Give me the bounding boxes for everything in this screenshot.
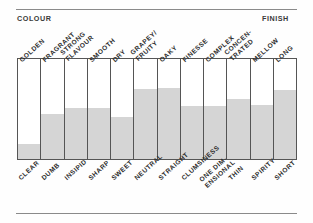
- bottom-divider-rule: [16, 213, 297, 214]
- bar-fill: [111, 117, 133, 159]
- bar-column: [181, 59, 204, 159]
- bar-fill: [65, 108, 87, 159]
- bar-column: [134, 59, 157, 159]
- bar-fill: [134, 89, 156, 159]
- bar-column: [18, 59, 41, 159]
- bar-chart-plot-area: [17, 58, 297, 160]
- bar-column: [65, 59, 88, 159]
- bottom-tick-line-1: SHORT: [273, 159, 297, 181]
- bar-fill: [227, 99, 249, 159]
- bar-fill: [41, 114, 63, 159]
- bottom-tick-line-1: CLEAR: [17, 159, 40, 181]
- header-label-colour: COLOUR: [17, 14, 51, 23]
- bottom-tick-line-1: INSIPID: [63, 158, 88, 181]
- bottom-tick-label: CLEAR: [17, 159, 41, 182]
- header-label-finish: FINISH: [262, 14, 289, 23]
- bar-column: [88, 59, 111, 159]
- bar-column: [274, 59, 296, 159]
- bottom-tick-label: DUMB: [40, 161, 61, 181]
- bottom-tick-label: SHORT: [273, 159, 297, 182]
- bottom-tick-label: INSIPID: [63, 158, 88, 182]
- bottom-tick-line-1: DUMB: [40, 161, 61, 181]
- bottom-tick-label: SPIRITY: [250, 156, 277, 181]
- bar-column: [227, 59, 250, 159]
- bar-fill: [18, 144, 40, 159]
- bar-column: [158, 59, 181, 159]
- bar-fill: [88, 108, 110, 159]
- bar-column: [41, 59, 64, 159]
- bar-fill: [251, 105, 273, 159]
- bar-fill: [274, 90, 296, 159]
- bar-column: [251, 59, 274, 159]
- wine-attribute-scale-figure: COLOUR FINISH GOLDENFRAGRANTSTRONGFLAVOU…: [0, 0, 313, 223]
- bar-fill: [158, 88, 180, 159]
- top-divider-rule: [16, 9, 297, 10]
- bottom-tick-label: SHARP: [87, 159, 111, 182]
- bottom-tick-label: SWEET: [110, 159, 134, 182]
- bottom-tick-line-1: SHARP: [87, 159, 111, 181]
- bottom-tick-line-1: SPIRITY: [250, 156, 276, 181]
- bottom-tick-line-1: SWEET: [110, 159, 134, 182]
- bar-column: [111, 59, 134, 159]
